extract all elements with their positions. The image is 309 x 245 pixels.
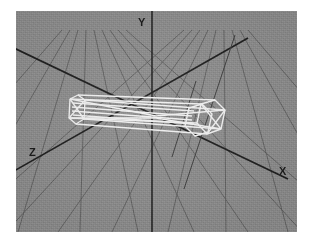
perspective-floor-grid [16, 30, 297, 232]
hexagonal-prism-wireframe[interactable] [69, 95, 225, 136]
viewport-3d[interactable] [16, 11, 297, 232]
axis-label-x: X [279, 166, 286, 177]
viewport-canvas [16, 11, 297, 232]
axis-label-y: Y [138, 17, 145, 28]
screenshot-root: Y Z X [0, 0, 309, 245]
axis-label-z: Z [29, 147, 36, 158]
